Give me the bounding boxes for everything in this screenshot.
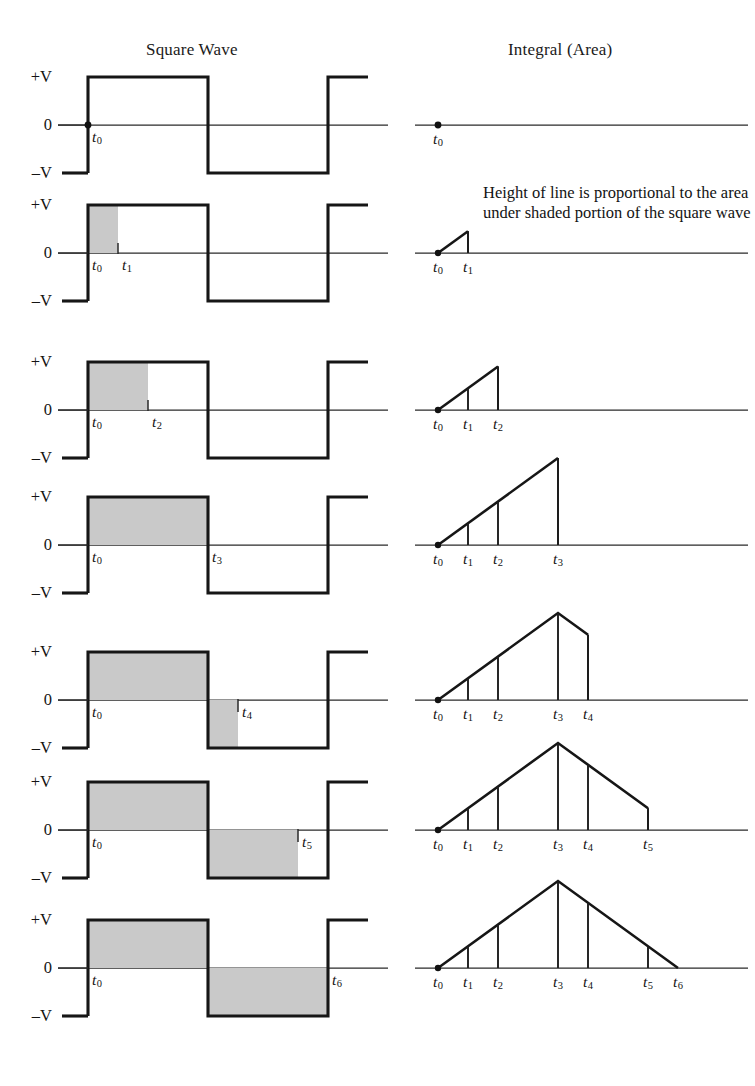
- time-label-t3: t3: [212, 548, 222, 566]
- time-label-t6: t6: [332, 971, 342, 989]
- time-label-t0: t0: [92, 413, 102, 431]
- integral-origin-dot-row-5: [435, 827, 441, 833]
- time-label-t0: t0: [92, 548, 102, 566]
- time-label-t0: t0: [433, 550, 443, 568]
- time-label-t3: t3: [553, 973, 563, 991]
- shaded-area-row-1-0: [88, 205, 118, 253]
- shaded-area-row-3-0: [88, 497, 208, 545]
- time-label-t2: t2: [493, 550, 503, 568]
- axis-label-negative-row-1: –V: [32, 291, 52, 311]
- column-title-square-wave: Square Wave: [146, 40, 238, 60]
- time-label-t4: t4: [583, 705, 593, 723]
- axis-label-positive-row-1: +V: [31, 195, 52, 215]
- axis-label-negative-row-4: –V: [32, 738, 52, 758]
- integral-origin-dot-row-6: [435, 965, 441, 971]
- time-label-t6: t6: [673, 973, 683, 991]
- shaded-area-row-6-0: [88, 920, 208, 968]
- time-label-t0: t0: [92, 256, 102, 274]
- axis-label-positive-row-0: +V: [31, 67, 52, 87]
- axis-label-zero-row-2: 0: [44, 400, 52, 420]
- time-label-t2: t2: [493, 415, 503, 433]
- time-label-t1: t1: [463, 415, 473, 433]
- time-label-t5: t5: [643, 835, 653, 853]
- caption-height-proportional: Height of line is proportional to the ar…: [483, 183, 751, 222]
- integral-origin-dot-row-0: [435, 122, 442, 129]
- axis-label-positive-row-6: +V: [31, 910, 52, 930]
- axis-label-negative-row-6: –V: [32, 1006, 52, 1026]
- time-label-t0: t0: [92, 703, 102, 721]
- axis-label-negative-row-5: –V: [32, 868, 52, 888]
- time-label-t2: t2: [493, 835, 503, 853]
- time-label-t0: t0: [433, 258, 443, 276]
- axis-label-zero-row-5: 0: [44, 820, 52, 840]
- time-label-t0: t0: [433, 835, 443, 853]
- time-label-t0: t0: [433, 973, 443, 991]
- time-label-t3: t3: [553, 705, 563, 723]
- shaded-area-row-5-1: [208, 830, 298, 878]
- time-label-t2: t2: [493, 705, 503, 723]
- axis-label-zero-row-1: 0: [44, 243, 52, 263]
- shaded-area-row-4-1: [208, 700, 238, 748]
- figure-canvas: [0, 0, 755, 1086]
- axis-label-zero-row-4: 0: [44, 690, 52, 710]
- shaded-area-row-6-1: [208, 968, 328, 1016]
- origin-dot-row-0: [85, 122, 92, 129]
- time-label-t0: t0: [433, 705, 443, 723]
- integral-of-square-wave-figure: Square Wave Integral (Area) Height of li…: [0, 0, 755, 1086]
- integral-trace-row-5: [438, 743, 648, 830]
- time-label-t0: t0: [433, 415, 443, 433]
- integral-origin-dot-row-2: [435, 407, 441, 413]
- time-label-t1: t1: [463, 550, 473, 568]
- time-label-t0: t0: [433, 130, 443, 148]
- axis-label-positive-row-4: +V: [31, 642, 52, 662]
- integral-trace-row-1: [438, 231, 468, 253]
- time-label-t4: t4: [583, 973, 593, 991]
- integral-origin-dot-row-3: [435, 542, 441, 548]
- time-label-t3: t3: [553, 835, 563, 853]
- axis-label-negative-row-0: –V: [32, 163, 52, 183]
- time-label-t4: t4: [583, 835, 593, 853]
- time-label-t4: t4: [242, 703, 252, 721]
- time-label-t1: t1: [122, 256, 132, 274]
- time-label-t0: t0: [92, 833, 102, 851]
- column-title-integral: Integral (Area): [508, 40, 612, 60]
- axis-label-zero-row-6: 0: [44, 958, 52, 978]
- axis-label-positive-row-2: +V: [31, 352, 52, 372]
- time-label-t5: t5: [302, 833, 312, 851]
- axis-label-positive-row-3: +V: [31, 487, 52, 507]
- integral-trace-row-4: [438, 613, 588, 700]
- axis-label-negative-row-3: –V: [32, 583, 52, 603]
- time-label-t1: t1: [463, 258, 473, 276]
- time-label-t0: t0: [92, 971, 102, 989]
- axis-label-negative-row-2: –V: [32, 448, 52, 468]
- time-label-t2: t2: [493, 973, 503, 991]
- time-label-t1: t1: [463, 973, 473, 991]
- integral-origin-dot-row-4: [435, 697, 441, 703]
- time-label-t3: t3: [553, 550, 563, 568]
- time-label-t1: t1: [463, 705, 473, 723]
- time-label-t1: t1: [463, 835, 473, 853]
- shaded-area-row-5-0: [88, 782, 208, 830]
- time-label-t0: t0: [92, 128, 102, 146]
- shaded-area-row-4-0: [88, 652, 208, 700]
- axis-label-positive-row-5: +V: [31, 772, 52, 792]
- shaded-area-row-2-0: [88, 362, 148, 410]
- integral-origin-dot-row-1: [435, 250, 441, 256]
- time-label-t2: t2: [152, 413, 162, 431]
- time-label-t5: t5: [643, 973, 653, 991]
- axis-label-zero-row-3: 0: [44, 535, 52, 555]
- axis-label-zero-row-0: 0: [44, 115, 52, 135]
